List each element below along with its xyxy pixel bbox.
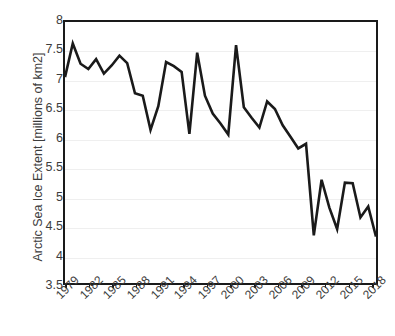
y-axis-tick-label: 6.5 xyxy=(23,101,63,115)
y-axis-tick-label: 4.5 xyxy=(23,219,63,233)
data-series-line xyxy=(65,22,376,283)
y-axis-tick-label: 5.5 xyxy=(23,160,63,174)
plot-area xyxy=(63,20,378,285)
y-axis-tick-label: 4 xyxy=(23,249,63,263)
y-axis-tick-label: 5 xyxy=(23,190,63,204)
y-axis-tick-label: 7 xyxy=(23,72,63,86)
y-axis-tick-label: 7.5 xyxy=(23,42,63,56)
chart-container: Arctic Sea Ice Extent [millions of km2] … xyxy=(0,0,395,336)
y-axis-tick-label: 6 xyxy=(23,131,63,145)
y-axis-tick-label: 8 xyxy=(23,13,63,27)
